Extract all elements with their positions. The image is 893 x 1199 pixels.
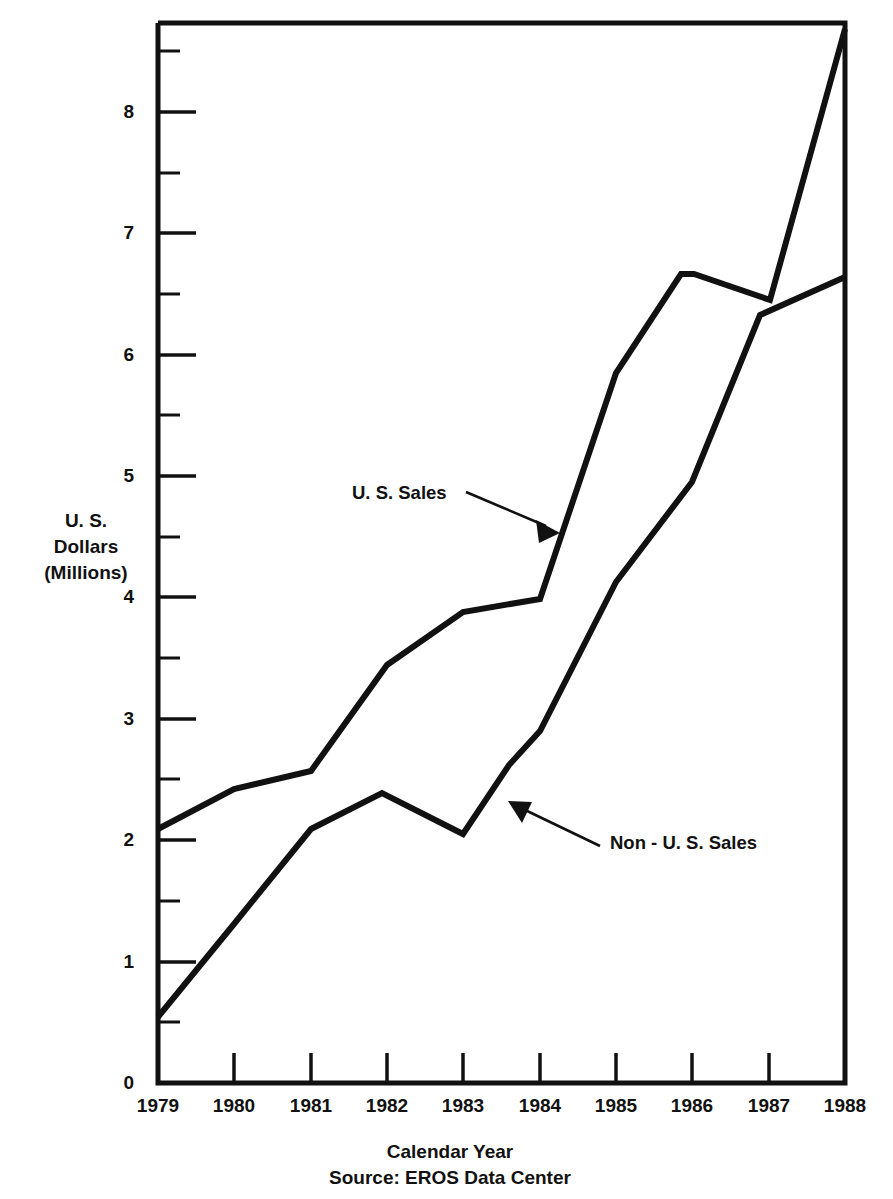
y-axis-title-line-1: U. S. [22,508,150,534]
x-axis-title: Calendar Year [300,1139,600,1165]
xtick-label-1981: 1981 [276,1095,346,1117]
xtick-label-1985: 1985 [581,1095,651,1117]
series-us-sales [158,29,845,829]
y-axis-minor-ticks [158,51,180,1022]
y-axis-title: U. S. Dollars (Millions) [22,508,150,586]
xtick-label-1986: 1986 [657,1095,727,1117]
ytick-label-1: 1 [106,951,134,973]
source-note: Source: EROS Data Center [280,1165,620,1191]
xtick-label-1982: 1982 [352,1095,422,1117]
ytick-label-2: 2 [106,829,134,851]
ytick-label-4: 4 [106,586,134,608]
series-non-us-sales [158,277,845,1017]
ytick-label-8: 8 [106,101,134,123]
us-sales-annotation-label: U. S. Sales [352,482,447,504]
ytick-label-5: 5 [106,465,134,487]
y-axis-title-line-2: Dollars [22,534,150,560]
non-us-sales-annotation-arrow [508,801,600,846]
plot-frame [158,23,845,1083]
ytick-label-3: 3 [106,708,134,730]
ytick-label-0: 0 [106,1072,134,1094]
ytick-label-6: 6 [106,344,134,366]
xtick-label-1979: 1979 [123,1095,193,1117]
x-axis-ticks [234,1053,769,1083]
xtick-label-1987: 1987 [734,1095,804,1117]
ytick-label-7: 7 [106,222,134,244]
y-axis-title-line-3: (Millions) [22,560,150,586]
chart-figure: 8 7 6 5 4 3 2 1 0 1979 1980 1981 1982 19… [0,0,893,1199]
xtick-label-1988: 1988 [810,1095,880,1117]
non-us-sales-annotation-label: Non - U. S. Sales [610,832,757,854]
xtick-label-1983: 1983 [428,1095,498,1117]
us-sales-annotation-arrow [466,492,560,543]
xtick-label-1980: 1980 [199,1095,269,1117]
xtick-label-1984: 1984 [505,1095,575,1117]
